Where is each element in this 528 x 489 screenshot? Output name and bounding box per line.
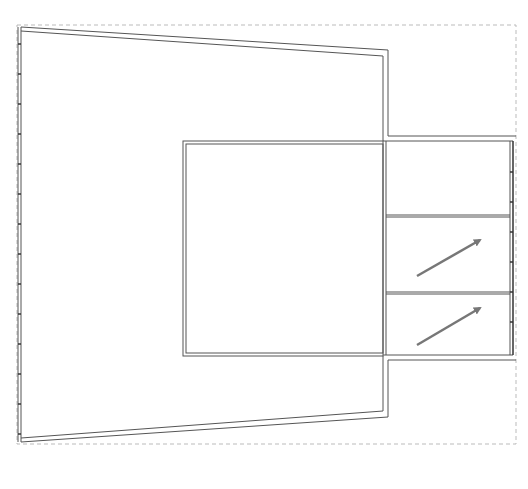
left-wall <box>18 27 21 442</box>
center-square-room <box>183 141 383 356</box>
right-panel-middle <box>387 218 509 291</box>
right-panel-top <box>387 142 509 214</box>
bottom-panel-arrow-icon <box>417 308 480 345</box>
right-panels <box>386 141 510 355</box>
trapezoid-room <box>21 27 388 442</box>
site-boundary <box>17 25 516 444</box>
middle-panel-arrow-icon <box>417 240 480 276</box>
right-wall <box>510 141 513 355</box>
floor-plan-canvas <box>0 0 528 489</box>
right-panel-bottom <box>387 295 509 354</box>
